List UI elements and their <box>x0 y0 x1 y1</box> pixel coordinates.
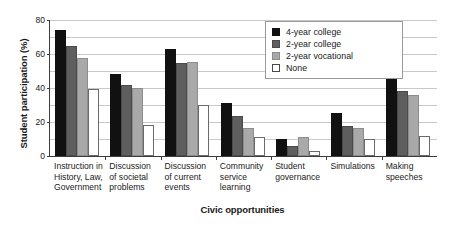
bar[interactable] <box>386 71 397 156</box>
legend-label: 2-year vocational <box>286 51 353 61</box>
bar[interactable] <box>342 126 353 156</box>
bar-group-bars <box>55 20 99 156</box>
bar[interactable] <box>165 49 176 156</box>
bar[interactable] <box>397 91 408 156</box>
y-axis-tick-label: 0 <box>40 151 45 161</box>
bar-group <box>165 20 209 156</box>
y-axis-title: Student participation (%) <box>18 19 29 169</box>
bar[interactable] <box>331 113 342 156</box>
x-axis-category-label: Student governance <box>275 161 324 182</box>
legend-swatch-icon <box>272 52 280 60</box>
bar[interactable] <box>198 105 209 156</box>
chart-figure: Student participation (%) 020406080 4-ye… <box>0 0 456 232</box>
y-axis-tick-mark <box>47 20 50 21</box>
y-axis-tick-mark <box>47 122 50 123</box>
y-axis-tick-label: 20 <box>36 117 45 127</box>
bar[interactable] <box>110 74 121 156</box>
legend-item[interactable]: 2-year vocational <box>272 50 396 62</box>
x-axis-group-separator <box>161 156 162 160</box>
bar[interactable] <box>243 128 254 156</box>
y-axis-tick-mark <box>47 54 50 55</box>
bar[interactable] <box>143 125 154 156</box>
legend-swatch-icon <box>272 40 280 48</box>
bar-group-bars <box>165 20 209 156</box>
bar[interactable] <box>187 62 198 156</box>
bar[interactable] <box>364 139 375 156</box>
bar[interactable] <box>419 136 430 156</box>
x-axis-title: Civic opportunities <box>49 204 436 215</box>
legend-label: None <box>286 63 307 73</box>
bar[interactable] <box>66 46 77 156</box>
bar[interactable] <box>176 63 187 157</box>
bar[interactable] <box>353 128 364 156</box>
bar[interactable] <box>309 151 320 156</box>
x-axis-category-label: Making speeches <box>386 161 435 182</box>
y-axis-tick-mark <box>47 156 50 157</box>
bar[interactable] <box>132 88 143 156</box>
legend-item[interactable]: None <box>272 62 396 74</box>
y-axis-tick-mark <box>47 88 50 89</box>
bar[interactable] <box>287 146 298 156</box>
x-axis-group-separator <box>271 156 272 160</box>
x-axis-category-label: Discussion of current events <box>165 161 214 193</box>
x-axis-group-separator <box>216 156 217 160</box>
bar[interactable] <box>298 137 309 156</box>
legend-swatch-icon <box>272 64 280 72</box>
legend-swatch-icon <box>272 28 280 36</box>
x-axis-category-label: Simulations <box>330 161 379 172</box>
bar[interactable] <box>121 85 132 156</box>
legend-label: 4-year college <box>286 27 341 37</box>
x-axis-group-separator <box>326 156 327 160</box>
bar[interactable] <box>55 30 66 156</box>
y-axis-tick-label: 60 <box>36 49 45 59</box>
bar[interactable] <box>88 89 99 156</box>
x-axis-group-separator <box>105 156 106 160</box>
y-axis-tick-label: 80 <box>36 15 45 25</box>
bar[interactable] <box>276 139 287 156</box>
x-axis-group-separator <box>382 156 383 160</box>
x-axis-category-label: Instruction in History, Law, Government <box>54 161 103 193</box>
bar[interactable] <box>77 58 88 156</box>
bar-group-bars <box>221 20 265 156</box>
bar-group-bars <box>110 20 154 156</box>
x-axis-category-label: Discussion of societal problems <box>109 161 158 193</box>
bar[interactable] <box>232 116 243 156</box>
bar[interactable] <box>254 137 265 156</box>
legend-label: 2-year college <box>286 39 341 49</box>
legend-item[interactable]: 2-year college <box>272 38 396 50</box>
bar[interactable] <box>408 95 419 156</box>
chart-legend: 4-year college2-year college2-year vocat… <box>265 21 403 79</box>
x-axis-category-label: Community service learning <box>220 161 269 193</box>
legend-item[interactable]: 4-year college <box>272 26 396 38</box>
y-axis-tick-label: 40 <box>36 83 45 93</box>
bar-group <box>110 20 154 156</box>
bar-group <box>55 20 99 156</box>
bar-group <box>221 20 265 156</box>
bar[interactable] <box>221 103 232 156</box>
